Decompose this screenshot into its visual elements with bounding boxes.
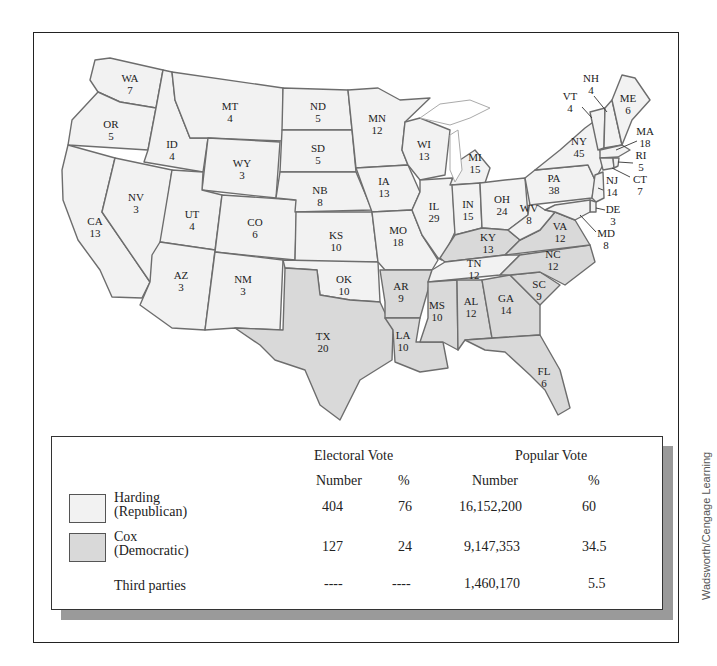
svg-text:MO: MO: [389, 224, 407, 236]
svg-text:NV: NV: [128, 191, 144, 203]
svg-text:10: 10: [432, 311, 444, 323]
svg-text:NM: NM: [234, 273, 252, 285]
svg-text:12: 12: [469, 269, 480, 281]
svg-text:8: 8: [603, 239, 609, 251]
svg-text:WY: WY: [233, 157, 251, 169]
svg-text:IL: IL: [429, 200, 440, 212]
svg-text:NB: NB: [312, 184, 327, 196]
legend-table: Electoral Vote Popular Vote Number % Num…: [51, 436, 663, 610]
svg-text:CA: CA: [87, 215, 102, 227]
svg-text:13: 13: [90, 227, 102, 239]
svg-text:SD: SD: [311, 142, 325, 154]
svg-text:OK: OK: [336, 273, 352, 285]
header-popular-vote: Popular Vote: [515, 448, 587, 464]
image-credit: Wadsworth/Cengage Learning: [700, 452, 712, 600]
svg-text:4: 4: [227, 112, 233, 124]
svg-text:3: 3: [610, 215, 616, 227]
svg-text:5: 5: [315, 112, 321, 124]
third-pv-percent: 5.5: [588, 576, 606, 592]
swatch-democratic: [69, 533, 106, 562]
svg-text:5: 5: [638, 161, 644, 173]
svg-text:8: 8: [526, 214, 532, 226]
svg-text:CO: CO: [247, 216, 262, 228]
svg-text:12: 12: [548, 260, 559, 272]
svg-text:MI: MI: [468, 151, 482, 163]
harding-ev-number: 404: [322, 499, 343, 515]
svg-text:WI: WI: [417, 138, 431, 150]
svg-text:MT: MT: [222, 100, 239, 112]
svg-text:PA: PA: [547, 172, 560, 184]
svg-text:12: 12: [466, 307, 477, 319]
svg-text:IN: IN: [462, 198, 474, 210]
svg-text:AR: AR: [393, 280, 409, 292]
svg-text:10: 10: [331, 241, 343, 253]
svg-text:TX: TX: [316, 330, 331, 342]
svg-text:UT: UT: [185, 208, 200, 220]
svg-text:ME: ME: [620, 92, 637, 104]
state-fl: [465, 335, 570, 415]
svg-text:45: 45: [574, 147, 586, 159]
state-de: [590, 200, 596, 212]
third-pv-number: 1,460,170: [464, 576, 520, 592]
svg-text:KY: KY: [480, 231, 496, 243]
svg-text:FL: FL: [538, 365, 551, 377]
svg-text:6: 6: [252, 228, 258, 240]
svg-text:14: 14: [501, 304, 513, 316]
svg-text:29: 29: [429, 212, 441, 224]
svg-text:10: 10: [339, 285, 351, 297]
svg-text:CT: CT: [633, 173, 647, 185]
svg-text:NC: NC: [545, 248, 560, 260]
header-electoral-vote: Electoral Vote: [314, 448, 393, 464]
cox-pv-number: 9,147,353: [464, 539, 520, 555]
svg-text:38: 38: [549, 184, 561, 196]
svg-text:GA: GA: [498, 292, 514, 304]
svg-text:8: 8: [317, 196, 323, 208]
svg-text:NH: NH: [583, 72, 599, 84]
third-ev-percent: ----: [392, 576, 411, 592]
svg-text:12: 12: [555, 232, 566, 244]
candidate-cox: Cox (Democratic): [114, 530, 189, 558]
svg-text:15: 15: [470, 163, 482, 175]
svg-text:3: 3: [133, 203, 139, 215]
svg-text:4: 4: [588, 84, 594, 96]
svg-text:VA: VA: [553, 220, 568, 232]
svg-text:13: 13: [379, 187, 391, 199]
state-pa: [525, 165, 595, 205]
state-ri: [613, 158, 619, 168]
cox-pv-percent: 34.5: [582, 539, 607, 555]
lake-superior: [420, 100, 490, 125]
svg-text:KS: KS: [329, 229, 343, 241]
svg-text:20: 20: [318, 342, 330, 354]
svg-text:3: 3: [239, 169, 245, 181]
svg-text:24: 24: [497, 205, 509, 217]
svg-text:AZ: AZ: [174, 269, 189, 281]
svg-text:7: 7: [127, 84, 133, 96]
swatch-republican: [69, 494, 106, 523]
harding-ev-percent: 76: [398, 499, 412, 515]
svg-text:6: 6: [625, 104, 631, 116]
svg-text:NY: NY: [571, 135, 587, 147]
svg-text:SC: SC: [532, 278, 545, 290]
svg-text:OH: OH: [494, 193, 510, 205]
svg-text:AL: AL: [464, 295, 479, 307]
harding-pv-number: 16,152,200: [459, 499, 522, 515]
third-parties-label: Third parties: [114, 579, 186, 593]
svg-text:MD: MD: [597, 227, 615, 239]
header-ev-number: Number: [316, 473, 362, 489]
svg-text:18: 18: [393, 236, 405, 248]
header-pv-number: Number: [472, 473, 518, 489]
svg-text:WA: WA: [121, 72, 138, 84]
svg-text:12: 12: [372, 124, 383, 136]
svg-text:4: 4: [567, 102, 573, 114]
svg-text:15: 15: [463, 210, 475, 222]
svg-text:18: 18: [640, 137, 652, 149]
svg-text:13: 13: [419, 150, 431, 162]
candidate-harding: Harding (Republican): [114, 491, 187, 519]
header-ev-percent: %: [398, 473, 410, 489]
svg-text:4: 4: [169, 150, 175, 162]
svg-text:4: 4: [189, 220, 195, 232]
svg-text:3: 3: [178, 281, 184, 293]
svg-text:7: 7: [637, 185, 643, 197]
svg-text:ID: ID: [166, 138, 178, 150]
svg-text:LA: LA: [396, 329, 411, 341]
